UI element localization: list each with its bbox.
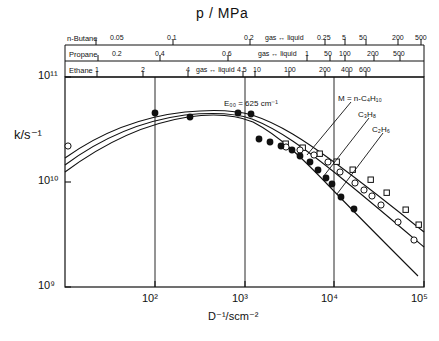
scale-label-n-butane: n-Butane <box>67 35 97 43</box>
tick-propane-7: 500 <box>393 50 405 57</box>
tick-ethane-1: 2 <box>141 66 145 73</box>
tick-ethane-5: 100 <box>284 66 296 73</box>
tick-ethane-8: 600 <box>359 66 371 73</box>
x-axis-label: D⁻¹/scm⁻² <box>208 311 259 322</box>
tick-n-butane-5: 50 <box>359 34 367 41</box>
ytick-1e10: 10¹⁰ <box>38 175 58 186</box>
tick-propane-1: 0.4 <box>155 50 165 57</box>
tick-n-butane-4: 5 <box>342 34 346 41</box>
xtick-1e4: 10⁴ <box>321 293 338 304</box>
series-label-propane: C₃H₈ <box>358 111 376 119</box>
ytick-1e9: 10⁹ <box>38 280 55 291</box>
scale-label-propane: Propane <box>69 51 97 59</box>
tick-propane-4: 50 <box>324 50 332 57</box>
scale-ticks-n-butane <box>96 39 421 45</box>
tick-propane-6: 200 <box>367 50 379 57</box>
curve-ethane <box>65 115 418 276</box>
tick-n-butane-1: 0.1 <box>167 34 177 41</box>
xtick-1e5: 10⁵ <box>411 293 428 304</box>
chart-title: p / MPa <box>196 6 248 20</box>
scale-ticks-propane <box>98 55 400 61</box>
leader-line-ethane <box>337 133 383 194</box>
y-axis-ticks <box>65 77 71 287</box>
tick-ethane-0: 1 <box>95 66 99 73</box>
tick-ethane-3: 4.5 <box>237 66 247 73</box>
tick-ethane-6: 200 <box>319 66 331 73</box>
leader-line-butane <box>307 102 351 155</box>
phase-note-ethane: gas ↔ liquid <box>196 66 235 73</box>
y-axis-label: k/s⁻¹ <box>14 128 42 141</box>
tick-ethane-2: 4 <box>186 66 190 73</box>
tick-n-butane-6: 200 <box>392 34 404 41</box>
tick-propane-2: 0.6 <box>222 50 232 57</box>
xtick-1e2: 10² <box>142 293 158 304</box>
figure-chart-falloff: p / MPa n-Butane Propane Ethane 0.05 0.1… <box>0 0 439 341</box>
tick-ethane-4: 10 <box>253 66 261 73</box>
energy-annotation: E₀₀ = 625 cm⁻¹ <box>224 100 278 108</box>
scale-label-ethane: Ethane <box>69 67 93 75</box>
tick-n-butane-3: 0.25 <box>317 34 331 41</box>
tick-propane-5: 100 <box>339 50 351 57</box>
curve-n-butane <box>65 110 424 232</box>
tick-propane-0: 0.2 <box>112 50 122 57</box>
xtick-1e3: 10³ <box>232 293 248 304</box>
x-axis-ticks <box>155 281 424 287</box>
tick-propane-3: 1 <box>305 50 309 57</box>
tick-ethane-7: 400 <box>341 66 353 73</box>
phase-note-n-butane: gas ↔ liquid <box>265 34 304 41</box>
series-label-butane: M = n-C₄H₁₀ <box>338 95 382 103</box>
grid-lines <box>155 77 334 287</box>
tick-n-butane-0: 0.05 <box>110 34 124 41</box>
phase-note-propane: gas ↔ liquid <box>258 50 297 57</box>
tick-n-butane-7: 500 <box>415 34 427 41</box>
ytick-1e11: 10¹¹ <box>38 70 58 81</box>
series-label-ethane: C₂H₆ <box>372 126 390 134</box>
tick-n-butane-2: 0.2 <box>244 34 254 41</box>
